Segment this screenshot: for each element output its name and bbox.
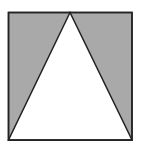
- diagram-canvas: [0, 0, 141, 145]
